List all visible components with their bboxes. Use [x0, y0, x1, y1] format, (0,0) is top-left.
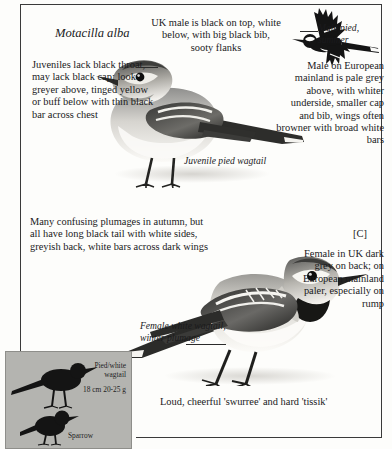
leader-line-female	[186, 344, 226, 345]
plate-border-bottom	[136, 437, 382, 438]
juvenile-pied-wagtail-caption: Juvenile pied wagtail	[184, 155, 268, 167]
bird-field-guide-plate: Motacilla alba Juveniles lack black thro…	[0, 0, 392, 449]
size-comparison-inset: Pied/white wagtail 18 cm 20-25 g Sparrow	[5, 351, 132, 449]
female-description-note: Female in UK dark grey on back; on Europ…	[292, 248, 384, 310]
inset-measurements: 18 cm 20-25 g	[60, 386, 126, 395]
voice-description-note: Loud, cheerful 'swurree' and hard 'tissi…	[160, 396, 350, 408]
inset-comparison-label: Sparrow	[68, 432, 118, 441]
leader-line-male-pied	[300, 31, 318, 32]
male-pied-summer-caption: Male pied, summer	[318, 22, 386, 45]
european-male-description-note: Male on European mainland is pale grey a…	[276, 60, 384, 147]
plate-code-label: [C]	[340, 228, 380, 240]
uk-male-description-note: UK male is black on top, white below, wi…	[150, 17, 282, 54]
autumn-plumage-note: Many confusing plumages in autumn, but a…	[30, 216, 210, 253]
female-white-wagtail-caption: Female white wagtail, winter plumage	[140, 320, 236, 343]
leader-line-juvenile	[136, 67, 158, 68]
scientific-name: Motacilla alba	[55, 26, 165, 41]
inset-species-label: Pied/white wagtail	[74, 362, 126, 379]
plate-border-top	[20, 4, 382, 5]
juvenile-description-note: Juveniles lack black throat, may lack bl…	[32, 59, 157, 121]
plate-border-left	[20, 4, 21, 394]
